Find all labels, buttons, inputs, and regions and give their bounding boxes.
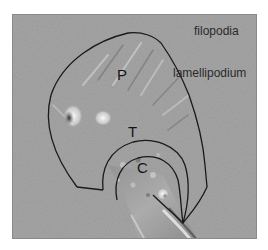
label-lamellipodium: lamellipodium <box>173 67 246 79</box>
label-transition-zone: T <box>128 124 137 139</box>
growth-cone-figure: filopodia lamellipodium P T C <box>0 0 268 250</box>
label-filopodia: filopodia <box>194 25 239 37</box>
label-peripheral-domain: P <box>117 67 127 82</box>
label-central-domain: C <box>137 160 148 175</box>
